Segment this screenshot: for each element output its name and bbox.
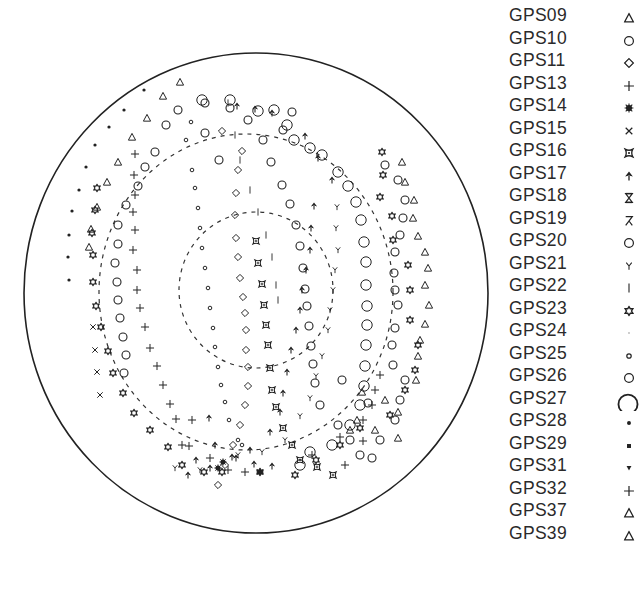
y-marker-icon (298, 413, 303, 419)
circle-small-marker-icon (208, 306, 212, 310)
legend-label: GPS19 (509, 207, 567, 229)
diamond-marker-icon (234, 253, 241, 260)
triangle-marker-icon (371, 426, 378, 433)
legend-item: GPS24 (509, 319, 639, 342)
circle-marker-icon (316, 401, 324, 409)
squared-star-marker-icon (330, 472, 336, 478)
plus-marker-icon (159, 381, 167, 389)
plus-marker-icon (178, 441, 186, 449)
circle-large-marker-icon (305, 447, 315, 457)
circle-large-marker-icon (327, 440, 337, 450)
legend-item: GPS10 (509, 27, 639, 50)
hexstar-marker-icon (131, 409, 137, 416)
circle-small-marker-icon (223, 400, 227, 404)
legend-label: GPS10 (509, 27, 567, 49)
circle-marker-icon (134, 182, 142, 190)
plus-legend-icon (621, 481, 637, 497)
satellite-tracks (66, 78, 432, 488)
square-filled-legend-icon (621, 436, 637, 452)
plus-marker-icon (146, 344, 154, 352)
circle-marker-icon (114, 221, 122, 229)
triangle-legend-icon (621, 503, 637, 519)
dot-marker-icon (67, 233, 70, 236)
hexstar-marker-icon (415, 341, 421, 348)
dot-marker-icon (122, 108, 125, 111)
y-marker-icon (173, 465, 178, 471)
circle-marker-icon (288, 108, 296, 116)
plus-marker-icon (241, 468, 249, 476)
circle-marker-icon (396, 396, 404, 404)
hexstar-marker-icon (389, 212, 395, 219)
legend-item: GPS29 (509, 432, 639, 455)
arrow-up-marker-icon (251, 460, 257, 467)
arrow-up-marker-icon (212, 441, 218, 448)
circle-marker-icon (296, 242, 304, 250)
hexstar-marker-icon (412, 366, 418, 373)
arrow-up-marker-icon (206, 414, 212, 421)
circle-marker-icon (162, 121, 170, 129)
hexstar-marker-icon (110, 369, 116, 376)
legend-item: GPS16 (509, 139, 639, 162)
plus-marker-icon (172, 415, 180, 423)
legend-label: GPS24 (509, 319, 567, 341)
diamond-marker-icon (232, 234, 239, 241)
circle-small-marker-icon (200, 246, 204, 250)
legend-item: GPS21 (509, 252, 639, 275)
vbar-legend-icon (621, 278, 637, 294)
circle-marker-icon (259, 136, 267, 144)
arrow-up-marker-icon (302, 132, 308, 139)
hexstar-marker-icon (201, 468, 207, 475)
legend-item: GPS17 (509, 162, 639, 185)
hexstar-marker-icon (379, 148, 385, 155)
circle-marker-icon (305, 322, 313, 330)
triangle-marker-icon (414, 232, 421, 239)
elevation-ring-60 (179, 212, 333, 368)
hourglass-legend-icon (621, 188, 637, 204)
legend-label: GPS29 (509, 432, 567, 454)
legend-label: GPS15 (509, 117, 567, 139)
x-marker-icon (97, 392, 102, 397)
circle-large-marker-icon (253, 106, 263, 116)
circle-large-marker-icon (269, 105, 279, 115)
arrow-up-marker-icon (185, 471, 191, 478)
triangle-marker-icon (421, 248, 428, 255)
squared-star-marker-icon (261, 302, 267, 308)
triangle-legend-icon (621, 8, 637, 24)
diamond-marker-icon (241, 401, 248, 408)
circle-marker-icon (394, 301, 402, 309)
circle-small-marker-icon (236, 438, 240, 442)
circle-large-marker-icon (305, 143, 315, 153)
circle-marker-icon (267, 158, 275, 166)
arrow-up-marker-icon (297, 306, 303, 313)
dot-marker-icon (107, 125, 110, 128)
circle-marker-icon (391, 248, 399, 256)
squared-star-marker-icon (267, 365, 273, 371)
circle-marker-icon (119, 333, 127, 341)
squared-star-legend-icon (621, 143, 637, 159)
diamond-marker-icon (236, 274, 243, 281)
triangle-marker-icon (412, 376, 419, 383)
hexstar-marker-icon (407, 316, 413, 323)
circle-small-marker-icon (219, 383, 223, 387)
circle-marker-icon (391, 324, 399, 332)
circle-marker-icon (399, 214, 407, 222)
circle-small-marker-icon (213, 345, 217, 349)
y-marker-icon (336, 247, 341, 253)
legend-item: GPS31 (509, 454, 639, 477)
circle-legend-icon (621, 31, 637, 47)
arrow-up-marker-icon (311, 202, 317, 209)
hexstar-marker-icon (357, 424, 363, 431)
hexstar-legend-icon (621, 301, 637, 317)
circle-large-marker-icon (333, 167, 343, 177)
y-marker-icon (260, 449, 265, 455)
track-gps09 (85, 78, 432, 441)
circle-small-marker-icon (189, 120, 193, 124)
hexstar-marker-icon (179, 461, 185, 468)
circle-small-marker-icon (190, 168, 194, 172)
dot-marker-icon (67, 278, 70, 281)
dot-marker-icon (70, 209, 73, 212)
circle-marker-icon (122, 351, 130, 359)
circle-large-marker-icon (356, 215, 366, 225)
hexstar-marker-icon (90, 278, 96, 285)
plus-marker-icon (129, 246, 137, 254)
